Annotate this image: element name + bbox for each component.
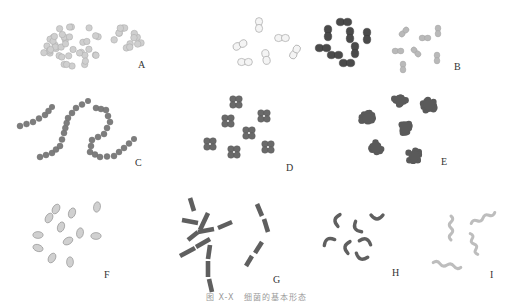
diplococcus	[419, 35, 431, 41]
tetrad	[228, 146, 241, 159]
coccus	[104, 125, 110, 131]
coccus	[66, 24, 72, 30]
diplococcus	[351, 42, 359, 58]
panel-b-dark	[315, 18, 371, 67]
diplococcus	[339, 59, 355, 67]
coccus	[101, 131, 107, 137]
bacillus	[264, 219, 268, 232]
coccus	[131, 34, 138, 41]
vibrio	[355, 253, 368, 261]
diplococcus	[261, 49, 271, 65]
panel-label-d: D	[286, 162, 293, 173]
coccus	[73, 105, 79, 111]
tetrad	[262, 141, 275, 154]
vibrio	[322, 236, 334, 245]
coccus	[59, 137, 65, 143]
diplococcus	[434, 52, 440, 64]
panel-label-e: E	[441, 156, 447, 167]
coccobacillus	[56, 221, 66, 233]
diplococcus	[410, 46, 422, 58]
coccus	[117, 25, 124, 32]
tetrad	[243, 127, 256, 140]
coccus	[51, 33, 57, 39]
panel-label-b: B	[454, 61, 461, 72]
sarcina	[420, 97, 438, 114]
coccus	[17, 123, 23, 129]
coccobacillus	[91, 233, 101, 240]
coccus	[95, 134, 101, 140]
coccus	[86, 46, 92, 52]
panel-f	[32, 201, 101, 267]
bacillus	[255, 242, 262, 253]
panel-e	[358, 94, 437, 164]
diplococcus	[336, 18, 352, 26]
tetrad	[258, 110, 271, 123]
coccus	[92, 33, 98, 39]
coccobacillus	[93, 201, 102, 212]
vibrio	[344, 241, 350, 254]
coccus	[131, 136, 137, 142]
diplococcus	[288, 44, 302, 60]
coccus	[30, 119, 36, 125]
diplococcus	[275, 34, 290, 41]
bacillus	[246, 256, 252, 266]
coccus	[47, 46, 53, 52]
bacillus	[198, 229, 214, 232]
diplococcus	[232, 39, 248, 52]
coccus	[76, 50, 82, 56]
coccobacillus	[33, 232, 43, 239]
coccobacillus	[43, 212, 54, 224]
spirillum	[469, 233, 480, 255]
spirillum	[449, 216, 453, 240]
panel-label-a: A	[138, 59, 146, 70]
panel-i	[433, 211, 496, 269]
diplococcus	[346, 27, 354, 43]
coccus	[57, 143, 63, 149]
coccus	[121, 145, 127, 151]
bacillus	[182, 220, 198, 223]
coccobacillus	[67, 207, 77, 219]
panel-labels: ABCDEFGHI	[104, 59, 493, 285]
coccus	[79, 102, 85, 108]
coccobacillus	[67, 257, 74, 267]
sarcina	[368, 139, 384, 155]
tetrad	[204, 138, 217, 151]
coccobacillus	[50, 203, 61, 215]
coccus	[104, 154, 110, 160]
tetrad	[230, 96, 243, 109]
coccus	[111, 37, 118, 44]
coccus	[84, 38, 90, 44]
diplococcus	[238, 58, 253, 65]
coccus	[70, 46, 76, 52]
coccus	[65, 115, 71, 121]
panel-diplo-outline	[232, 18, 302, 66]
panel-label-f: F	[104, 269, 110, 280]
spirillum	[433, 261, 461, 269]
tetrad	[222, 115, 235, 128]
panel-c	[17, 98, 137, 160]
coccus	[97, 154, 103, 160]
panel-a	[41, 24, 145, 69]
coccus	[82, 58, 88, 64]
sarcina	[405, 148, 422, 165]
bacillus	[208, 245, 210, 259]
panel-label-h: H	[392, 267, 399, 278]
bacillus	[188, 232, 198, 240]
coccus	[37, 154, 43, 160]
coccus	[126, 141, 132, 147]
panel-label-g: G	[273, 274, 280, 285]
vibrio	[359, 237, 372, 245]
panel-g	[180, 198, 268, 292]
coccus	[36, 116, 42, 122]
sarcina	[358, 110, 376, 125]
figure-caption: 图 X-X 细菌的基本形态	[0, 291, 513, 302]
coccus	[107, 119, 113, 125]
bacillus	[218, 222, 232, 228]
coccus	[85, 98, 91, 104]
figure-shapes	[17, 18, 496, 292]
diplococcus	[435, 25, 441, 37]
coccus	[49, 104, 55, 110]
coccobacillus	[76, 227, 85, 238]
panel-label-c: C	[135, 157, 142, 168]
